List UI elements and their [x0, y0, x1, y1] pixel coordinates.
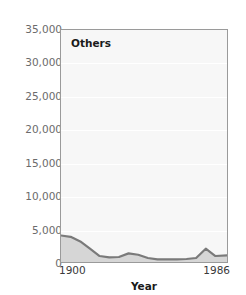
x-axis-tick-1900: 1900	[59, 265, 86, 276]
y-axis-tick-30000: 30,000	[8, 57, 62, 68]
y-axis-tick-20000: 20,000	[8, 124, 62, 135]
y-axis-tick-5000: 5,000	[8, 225, 62, 236]
series-label-others: Others	[71, 37, 111, 49]
y-axis-tick-0: 0	[8, 258, 62, 269]
plot-area: Others	[60, 29, 228, 263]
series-area-others	[61, 30, 227, 262]
y-axis-tick-35000: 35,000	[8, 24, 62, 35]
x-axis-tick-1986: 1986	[196, 265, 230, 276]
y-axis-tick-15000: 15,000	[8, 158, 62, 169]
y-axis-tick-25000: 25,000	[8, 91, 62, 102]
y-axis-tick-10000: 10,000	[8, 191, 62, 202]
chart-container: 35,00030,00025,00020,00015,00010,0005,00…	[0, 0, 246, 295]
x-axis-title: Year	[60, 280, 228, 292]
series-fill	[61, 235, 227, 262]
